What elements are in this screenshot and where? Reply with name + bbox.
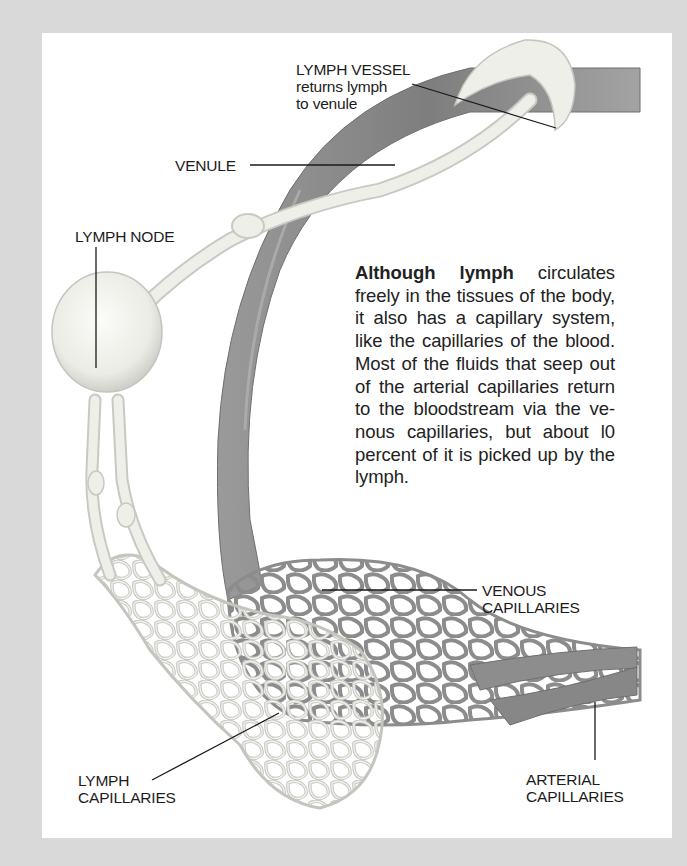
label-arterial-capillaries: ARTERIAL CAPILLARIES (526, 771, 624, 805)
label-lymph-capillaries: LYMPH CAPILLARIES (78, 772, 176, 806)
label-arterial-line1: ARTERIAL (526, 771, 624, 788)
figure-caption: Although lymph circulates freely in the … (355, 262, 615, 489)
label-lymph-vessel-desc-1: returns lymph (296, 78, 410, 95)
label-lymph-cap-line1: LYMPH (78, 772, 176, 789)
caption-body: circulates freely in the tissues of the … (355, 262, 615, 487)
lymph-node-shape (52, 272, 162, 392)
label-venule: VENULE (175, 157, 236, 174)
label-lymph-vessel-desc-2: to venule (296, 95, 410, 112)
lymph-valve-bulge (232, 214, 264, 238)
caption-lead: Although lymph (355, 262, 514, 283)
label-arterial-line2: CAPILLARIES (526, 788, 624, 805)
label-venous-line2: CAPILLARIES (482, 599, 580, 616)
label-lymph-vessel: LYMPH VESSEL returns lymph to venule (296, 61, 410, 112)
lymph-valve-bulge (88, 471, 104, 495)
lymph-valve-bulge (117, 503, 135, 527)
label-lymph-cap-line2: CAPILLARIES (78, 789, 176, 806)
label-venous-line1: VENOUS (482, 582, 580, 599)
label-venous-capillaries: VENOUS CAPILLARIES (482, 582, 580, 616)
label-lymph-vessel-title: LYMPH VESSEL (296, 61, 410, 78)
label-lymph-node: LYMPH NODE (75, 228, 174, 245)
